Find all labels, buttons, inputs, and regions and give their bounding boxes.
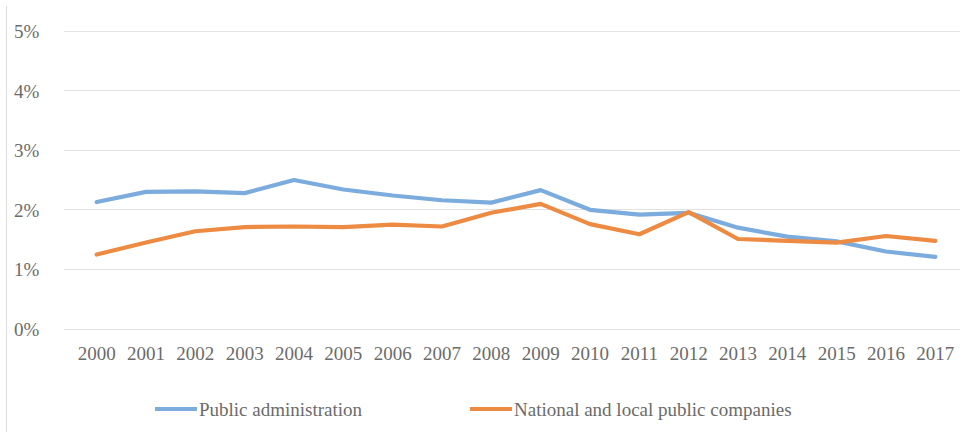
chart-legend: Public administrationNational and local … [155,399,792,420]
legend-label: Public administration [199,399,363,420]
line-chart: 0%1%2%3%4%5% 200020012002200320042005200… [0,0,966,438]
x-axis-tick-labels: 2000200120022003200420052006200720082009… [78,343,955,364]
x-axis-tick-label: 2006 [374,343,412,364]
x-axis-tick-label: 2002 [176,343,214,364]
y-axis-tick-label: 2% [14,200,40,221]
x-axis-tick-label: 2013 [719,343,757,364]
x-axis-tick-label: 2017 [916,343,954,364]
x-axis-tick-label: 2008 [472,343,510,364]
x-axis-tick-label: 2014 [768,343,807,364]
y-axis-tick-labels: 0%1%2%3%4%5% [14,21,40,340]
series-line [97,180,936,257]
y-axis-tick-label: 3% [14,140,40,161]
x-axis-tick-label: 2007 [423,343,461,364]
y-axis-tick-label: 1% [14,259,40,280]
x-axis-tick-label: 2012 [670,343,708,364]
x-axis-tick-label: 2010 [571,343,609,364]
series-line [97,204,936,255]
x-axis-tick-label: 2000 [78,343,116,364]
y-axis-tick-label: 0% [14,319,40,340]
x-axis-tick-label: 2015 [818,343,856,364]
x-axis-tick-label: 2003 [226,343,264,364]
y-axis-tick-label: 4% [14,81,40,102]
gridlines [64,31,960,329]
x-axis-tick-label: 2011 [621,343,658,364]
x-axis-tick-label: 2001 [127,343,165,364]
x-axis-tick-label: 2009 [522,343,560,364]
x-axis-tick-label: 2016 [867,343,905,364]
y-axis-tick-label: 5% [14,21,40,42]
x-axis-tick-label: 2004 [275,343,314,364]
legend-label: National and local public companies [514,399,792,420]
chart-canvas: 0%1%2%3%4%5% 200020012002200320042005200… [0,0,966,438]
data-series [97,180,936,257]
x-axis-tick-label: 2005 [324,343,362,364]
